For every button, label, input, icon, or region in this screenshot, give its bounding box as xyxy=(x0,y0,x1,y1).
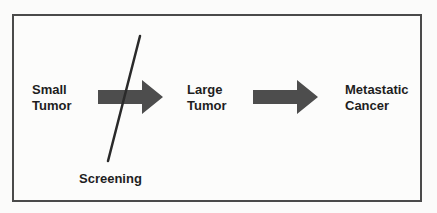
stage-large-tumor: Large Tumor xyxy=(187,82,226,114)
arrow-right-icon xyxy=(98,80,163,114)
arrow-right-icon xyxy=(253,80,318,114)
screening-label: Screening xyxy=(79,171,142,187)
stage-metastatic-cancer: Metastatic Cancer xyxy=(345,82,409,114)
stage-small-tumor: Small Tumor xyxy=(32,82,71,114)
